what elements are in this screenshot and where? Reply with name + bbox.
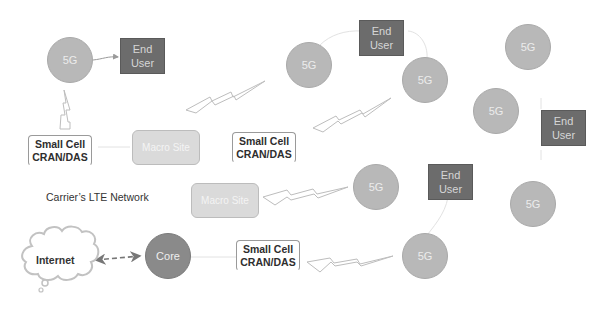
link-internet-core [96, 256, 140, 260]
wireless-bolt-icon [313, 98, 391, 132]
macro-site-node: Macro Site [132, 130, 200, 165]
small-cell-node: Small Cell CRAN/DAS [236, 240, 300, 271]
wireless-bolt-icon [186, 81, 265, 113]
wireless-bolt-icon [263, 187, 348, 205]
small-cell-node: Small Cell CRAN/DAS [28, 135, 92, 166]
link-5g-to-end-user [93, 57, 118, 60]
end-user-node: End User [541, 110, 586, 146]
5g-node: 5G [353, 164, 399, 210]
small-cell-node: Small Cell CRAN/DAS [232, 132, 296, 163]
5g-node: 5G [473, 88, 519, 134]
core-node: Core [145, 233, 191, 279]
5g-node: 5G [286, 42, 332, 88]
wireless-bolt-icon [60, 90, 70, 129]
macro-site-node: Macro Site [191, 183, 259, 218]
5g-node: 5G [402, 233, 448, 279]
internet-label: Internet [36, 254, 75, 266]
5g-node: 5G [505, 24, 551, 70]
wireless-bolt-icon [307, 256, 393, 272]
end-user-node: End User [120, 38, 165, 74]
network-diagram: Internet Core 5G 5G 5G 5G 5G 5G 5G 5G En… [0, 0, 605, 309]
wireless-links [60, 81, 393, 272]
end-user-node: End User [359, 20, 404, 56]
5g-node: 5G [402, 57, 448, 103]
end-user-node: End User [428, 164, 473, 200]
5g-node: 5G [47, 37, 93, 83]
network-label: Carrier’s LTE Network [46, 191, 149, 203]
5g-node: 5G [510, 181, 556, 227]
